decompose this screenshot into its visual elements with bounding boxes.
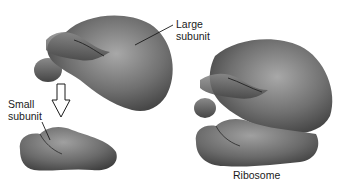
ribosome-diagram: Large subunit Small subunit Ribosome <box>0 0 353 193</box>
ribosome-label: Ribosome <box>233 169 280 181</box>
assembly-arrow-icon <box>52 84 70 117</box>
small-subunit-label-line2: subunit <box>8 110 42 122</box>
large-subunit-label-line1: Large <box>176 18 210 30</box>
ribosome <box>194 39 332 166</box>
small-subunit-label-line1: Small <box>8 98 42 110</box>
large-subunit <box>34 16 173 111</box>
small-subunit-label: Small subunit <box>8 98 42 122</box>
large-subunit-label-line2: subunit <box>176 30 210 42</box>
small-subunit <box>20 127 117 171</box>
large-subunit-label: Large subunit <box>176 18 210 42</box>
